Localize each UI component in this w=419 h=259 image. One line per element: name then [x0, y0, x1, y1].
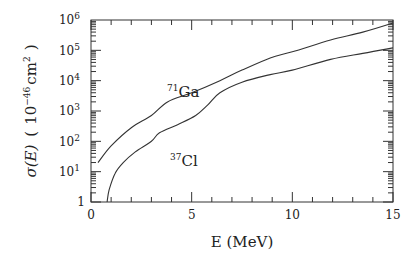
ga-curve	[98, 23, 393, 163]
x-tick-label: 5	[188, 208, 196, 222]
axis-ticks	[91, 20, 393, 202]
y-tick-label: 104	[59, 72, 80, 88]
x-tick-label: 15	[385, 208, 400, 222]
cl-curve	[107, 48, 393, 202]
plot-frame	[91, 20, 393, 202]
cl-curve-label: 37Cl	[170, 152, 198, 170]
y-tick-label: 1	[77, 195, 85, 209]
cross-section-chart: 0 5 10 15 1 101 102 103 104 105 106 E (M…	[0, 0, 419, 259]
y-tick-label: 101	[59, 163, 80, 179]
x-axis-label: E (MeV)	[211, 233, 274, 251]
curves	[98, 23, 393, 202]
ga-curve-label: 71Ga	[167, 83, 199, 101]
x-tick-label: 0	[87, 208, 95, 222]
y-axis-label: σ(E)(10−46cm2)	[22, 44, 40, 177]
y-tick-label: 103	[59, 102, 80, 118]
y-tick-label: 106	[59, 11, 80, 27]
x-tick-label: 10	[285, 208, 300, 222]
y-tick-label: 102	[59, 133, 80, 149]
y-tick-label: 105	[59, 42, 80, 58]
